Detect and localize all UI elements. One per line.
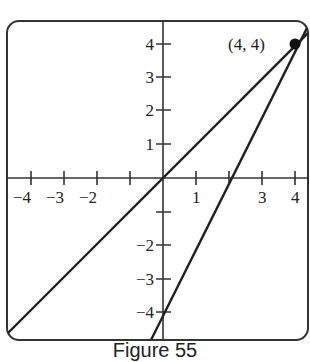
svg-text:−3: −3: [46, 188, 64, 207]
svg-text:3: 3: [258, 188, 267, 207]
svg-text:2: 2: [146, 101, 155, 120]
svg-text:3: 3: [146, 68, 155, 87]
svg-text:−2: −2: [136, 236, 154, 255]
plot-frame: [7, 21, 308, 340]
svg-text:1: 1: [192, 188, 201, 207]
x-tick-labels: −4 −3 −2 1 3 4: [13, 188, 300, 207]
svg-text:−4: −4: [136, 303, 155, 322]
svg-text:4: 4: [291, 188, 300, 207]
svg-text:−3: −3: [136, 270, 154, 289]
svg-text:−4: −4: [13, 188, 32, 207]
line-y-equals-2x-minus-4: [150, 18, 310, 342]
intersection-point-marker: [290, 39, 301, 50]
svg-text:−2: −2: [79, 188, 97, 207]
line-y-equals-x: [8, 30, 310, 333]
svg-text:1: 1: [146, 135, 155, 154]
figure-caption: Figure 55: [0, 338, 310, 362]
svg-text:4: 4: [146, 35, 155, 54]
intersection-point-label: (4, 4): [228, 35, 265, 54]
